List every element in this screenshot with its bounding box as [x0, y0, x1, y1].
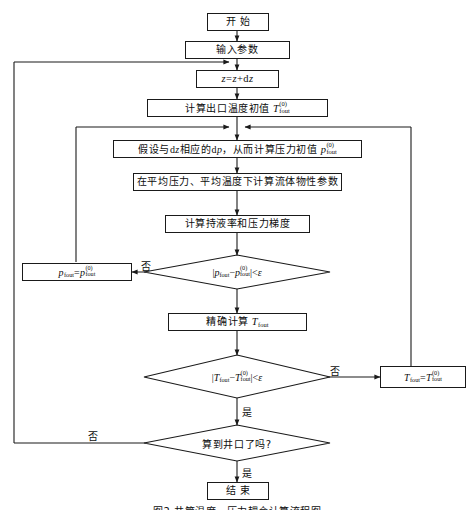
node-holdup-gradient: 计算持液率和压力梯度 — [165, 215, 310, 233]
node-exact-temp-label: 精确计算 Tfout — [206, 316, 268, 329]
node-start-label: 开 始 — [226, 17, 251, 28]
node-p-update-label: pfout=p(0)fout — [59, 265, 96, 279]
node-input-params-label: 输入参数 — [216, 45, 258, 56]
node-wellhead-check-label: 算到井口了吗? — [177, 435, 297, 451]
edge-label-p-no: 否 — [141, 258, 152, 273]
node-fluid-props-label: 在平均压力、平均温度下计算流体物性参数 — [137, 177, 338, 188]
edge-label-wellhead-no: 否 — [88, 428, 99, 443]
node-wellhead-check-text: 算到井口了吗? — [202, 436, 272, 451]
node-p-check-label: |pfout−p(0)fout|<ε — [162, 263, 312, 281]
node-t-update-label: Tfout=T(0)fout — [404, 370, 442, 384]
node-step-z: z=z+dz — [196, 70, 279, 88]
edge-label-wellhead-yes: 是 — [242, 465, 253, 480]
node-end: 结 束 — [207, 482, 269, 500]
node-exact-temp: 精确计算 Tfout — [168, 313, 307, 331]
node-holdup-gradient-label: 计算持液率和压力梯度 — [185, 219, 291, 230]
flowchart-figure: 开 始 输入参数 z=z+dz 计算出口温度初值 T(0)fout 假设与dz相… — [0, 0, 474, 510]
node-assume-dp-label: 假设与dz相应的dp，从而计算压力初值 p(0)fout — [138, 142, 337, 155]
node-t-check-label: |Tfout−T(0)fout|<ε — [162, 368, 312, 386]
node-fluid-props: 在平均压力、平均温度下计算流体物性参数 — [133, 173, 342, 191]
node-assume-dp: 假设与dz相应的dp，从而计算压力初值 p(0)fout — [113, 140, 362, 158]
edge-label-t-yes: 是 — [242, 404, 253, 419]
node-end-label: 结 束 — [226, 486, 251, 497]
node-input-params: 输入参数 — [185, 41, 290, 59]
node-step-z-label: z=z+dz — [222, 73, 254, 84]
node-init-temp: 计算出口温度初值 T(0)fout — [147, 99, 328, 117]
node-start: 开 始 — [207, 13, 269, 31]
figure-caption: 图2 井筒温度、压力耦合计算流程图 — [0, 503, 474, 510]
edge-label-t-no: 否 — [330, 363, 341, 378]
node-init-temp-label: 计算出口温度初值 T(0)fout — [185, 101, 290, 114]
node-p-update: pfout=p(0)fout — [22, 263, 132, 281]
node-t-update: Tfout=T(0)fout — [380, 366, 466, 388]
